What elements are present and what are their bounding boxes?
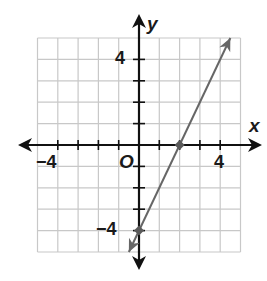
origin-label: O xyxy=(119,151,134,172)
data-point xyxy=(134,226,144,236)
x-tick-label-neg4: −4 xyxy=(36,152,57,172)
y-tick-label-neg4: −4 xyxy=(96,219,117,239)
x-tick-label-4: 4 xyxy=(214,152,224,172)
coordinate-plane: x y O −4 4 4 −4 xyxy=(0,0,267,281)
y-axis-label: y xyxy=(146,13,159,34)
data-point xyxy=(175,140,185,150)
y-tick-label-4: 4 xyxy=(115,48,125,68)
x-axis-label: x xyxy=(248,115,261,136)
